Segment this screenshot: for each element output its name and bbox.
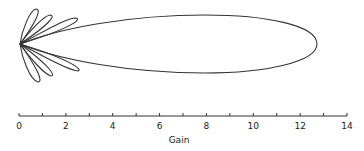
radiation-pattern — [20, 9, 317, 82]
axis-tick-labels: 02468101214 — [16, 121, 353, 131]
axis-tick-label: 12 — [294, 121, 305, 131]
axis-tick-label: 8 — [204, 121, 210, 131]
axis-tick-label: 2 — [63, 121, 69, 131]
axis-tick-label: 0 — [16, 121, 22, 131]
axis-tick-label: 4 — [110, 121, 116, 131]
axis-tick-label: 6 — [157, 121, 163, 131]
gain-axis — [19, 113, 347, 116]
axis-title: Gain — [169, 135, 190, 145]
main-lobe — [20, 15, 317, 73]
axis-tick-label: 14 — [341, 121, 353, 131]
radiation-pattern-diagram: 02468101214 Gain — [0, 0, 364, 151]
axis-tick-label: 10 — [248, 121, 260, 131]
